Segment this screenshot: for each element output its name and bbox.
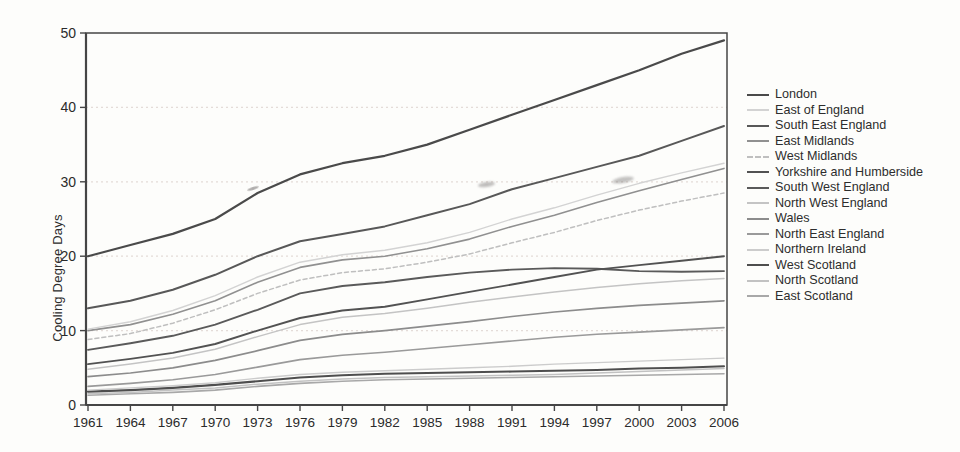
legend-swatch-line: [747, 94, 769, 96]
series-line-london: [88, 40, 724, 256]
legend-swatch-line: [747, 156, 769, 158]
x-tick-label: 1991: [497, 415, 527, 430]
legend-item: North West England: [747, 196, 923, 212]
x-tick-label: 1988: [455, 415, 485, 430]
legend-swatch-line: [747, 125, 769, 127]
legend-label: London: [775, 88, 817, 101]
legend-label: Wales: [775, 212, 810, 225]
x-tick-label: 1967: [158, 415, 188, 430]
legend-item: East of England: [747, 103, 923, 119]
legend-item: West Scotland: [747, 258, 923, 274]
legend-swatch-line: [747, 171, 769, 173]
legend-label: Northern Ireland: [775, 243, 866, 256]
x-tick-label: 2003: [667, 415, 697, 430]
x-tick-label: 2006: [709, 415, 739, 430]
legend-swatch-line: [747, 202, 769, 204]
legend-swatch-line: [747, 249, 769, 251]
legend-label: North East England: [775, 228, 884, 241]
legend-item: East Scotland: [747, 289, 923, 305]
legend-swatch-line: [747, 295, 769, 297]
x-tick-label: 1997: [582, 415, 612, 430]
cooling-degree-days-figure: Cooling Degree Days 01020304050196119641…: [0, 0, 960, 452]
legend-swatch-line: [747, 233, 769, 235]
x-tick-label: 2000: [624, 415, 654, 430]
legend-label: South West England: [775, 181, 890, 194]
x-tick-label: 1994: [539, 415, 570, 430]
y-tick-label: 40: [60, 99, 76, 115]
series-line-north-west-england: [88, 279, 724, 370]
x-tick-label: 1973: [243, 415, 273, 430]
legend-item: London: [747, 87, 923, 103]
series-line-wales: [88, 301, 724, 377]
legend-label: East of England: [775, 104, 864, 117]
series-line-east-of-england: [88, 163, 724, 329]
legend-swatch-line: [747, 218, 769, 220]
legend-label: South East England: [775, 119, 886, 132]
y-tick-label: 0: [68, 397, 76, 413]
y-tick-label: 50: [60, 25, 76, 41]
legend-swatch-line: [747, 140, 769, 142]
legend-swatch-line: [747, 109, 769, 111]
legend-item: Yorkshire and Humberside: [747, 165, 923, 181]
x-tick-label: 1961: [73, 415, 103, 430]
legend-label: North West England: [775, 197, 887, 210]
legend-label: East Midlands: [775, 135, 854, 148]
series-line-south-west-england: [88, 268, 724, 350]
legend-swatch-line: [747, 187, 769, 189]
series-line-south-east-england: [88, 126, 724, 308]
legend-item: South East England: [747, 118, 923, 134]
plot-border: [86, 33, 727, 405]
legend-item: North Scotland: [747, 273, 923, 289]
x-tick-label: 1976: [285, 415, 315, 430]
legend-label: Yorkshire and Humberside: [775, 166, 923, 179]
y-tick-label: 10: [60, 323, 76, 339]
x-tick-label: 1982: [370, 415, 400, 430]
x-tick-label: 1970: [200, 415, 230, 430]
legend-item: South West England: [747, 180, 923, 196]
legend-item: North East England: [747, 227, 923, 243]
legend-label: North Scotland: [775, 274, 858, 287]
x-tick-label: 1985: [412, 415, 442, 430]
y-tick-label: 20: [60, 248, 76, 264]
legend-item: East Midlands: [747, 134, 923, 150]
legend: LondonEast of EnglandSouth East EnglandE…: [747, 87, 923, 304]
legend-label: East Scotland: [775, 290, 853, 303]
series-line-north-scotland: [88, 369, 724, 394]
legend-item: West Midlands: [747, 149, 923, 165]
legend-item: Wales: [747, 211, 923, 227]
legend-swatch-line: [747, 264, 769, 266]
legend-item: Northern Ireland: [747, 242, 923, 258]
legend-swatch-line: [747, 280, 769, 282]
x-tick-label: 1964: [115, 415, 146, 430]
legend-label: West Midlands: [775, 150, 857, 163]
legend-label: West Scotland: [775, 259, 856, 272]
x-tick-label: 1979: [327, 415, 357, 430]
y-tick-label: 30: [60, 174, 76, 190]
